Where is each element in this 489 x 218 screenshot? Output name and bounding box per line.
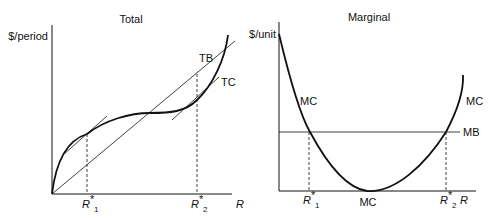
marginal-tick-r1: R * 1 (303, 189, 320, 210)
svg-text:*: * (90, 193, 95, 205)
tb-label: TB (199, 52, 213, 64)
svg-text:*: * (199, 193, 204, 205)
total-y-axis-label: $/period (8, 30, 48, 42)
svg-text:*: * (311, 189, 316, 201)
svg-text:2: 2 (452, 201, 457, 210)
diagram-canvas: Total $/period R TB TC R * 1 R * 2 Margi… (0, 0, 489, 218)
marginal-tick-r2: R * 2 (440, 189, 457, 210)
marginal-x-axis-label: R (460, 194, 468, 206)
svg-text:R: R (303, 194, 311, 206)
svg-text:R: R (440, 194, 448, 206)
svg-text:R: R (82, 198, 90, 210)
tangent-at-r2 (172, 77, 219, 120)
svg-text:1: 1 (315, 201, 320, 210)
total-x-axis-label: R (236, 198, 244, 210)
svg-text:R: R (191, 198, 199, 210)
mc-curve (279, 34, 463, 191)
total-tick-r1: R * 1 (82, 193, 99, 214)
tangent-at-r1 (63, 116, 107, 155)
total-panel: Total $/period R TB TC R * 1 R * 2 (8, 13, 244, 214)
total-tick-r2: R * 2 (191, 193, 208, 214)
marginal-title: Marginal (348, 11, 390, 23)
svg-text:2: 2 (203, 205, 208, 214)
tc-label: TC (221, 76, 236, 88)
mc-label-bottom: MC (359, 196, 376, 208)
mb-label: MB (463, 126, 480, 138)
total-title: Total (119, 13, 142, 25)
svg-text:*: * (448, 189, 453, 201)
mc-label-right: MC (466, 95, 483, 107)
mc-label-left: MC (300, 95, 317, 107)
marginal-panel: Marginal $/unit R MB MC MC R * 1 MC R * … (249, 11, 483, 210)
svg-text:1: 1 (94, 205, 99, 214)
marginal-y-axis-label: $/unit (249, 28, 276, 40)
